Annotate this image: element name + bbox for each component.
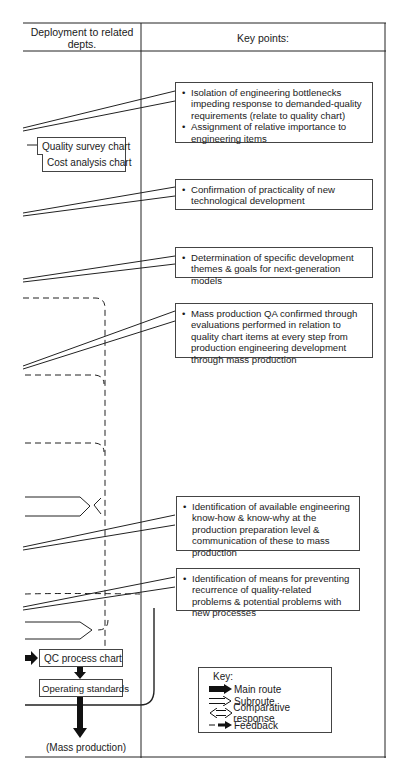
legend-item-feedback: Feedback: [209, 719, 278, 731]
subroute-arrow-2: [25, 622, 92, 639]
key-point-box-6: Identification of means for preventing r…: [176, 568, 360, 611]
key-point-bullet: Determination of specific development th…: [191, 252, 366, 286]
comparative-response-arrow-icon: [209, 708, 232, 718]
quality-survey-chart-box: Quality survey chart: [37, 137, 126, 155]
callout-pointer-5: [23, 515, 175, 550]
qc-process-chart-box: QC process chart: [39, 649, 123, 667]
key-point-bullet: Assignment of relative importance to eng…: [191, 121, 366, 144]
deployment-diagram: Deployment to related depts. Key points:…: [0, 0, 405, 773]
legend-title: Key:: [213, 671, 233, 682]
cost-analysis-chart-box: Cost analysis chart: [42, 154, 126, 172]
key-point-bullet: Mass production QA confirmed through eva…: [191, 308, 366, 365]
key-point-box-3: Determination of specific development th…: [175, 247, 373, 278]
operating-standards-box: Operating standards: [39, 679, 123, 697]
key-point-box-1: Isolation of engineering bottlenecks imp…: [175, 82, 373, 143]
key-point-bullet: Confirmation of practicality of new tech…: [191, 184, 366, 207]
callout-pointer-4: [23, 311, 175, 369]
mass-production-label: (Mass production): [46, 742, 126, 754]
subroute-arrow-icon: [209, 696, 233, 706]
key-point-box-2: Confirmation of practicality of new tech…: [175, 179, 373, 210]
header-deployment: Deployment to related depts.: [23, 26, 141, 50]
legend-box: Key: Main route Subroute Comparative res…: [198, 667, 332, 733]
callout-pointer-2: [23, 187, 175, 216]
key-point-bullet: Identification of means for preventing r…: [192, 573, 353, 619]
subroute-arrow-1: [25, 497, 90, 516]
legend-item-main-route: Main route: [209, 683, 281, 695]
key-point-bullet: Isolation of engineering bottlenecks imp…: [191, 87, 366, 121]
callout-pointer-1: [23, 91, 175, 131]
feedback-lines: [23, 298, 140, 660]
main-route-arrow-icon: [209, 684, 233, 694]
key-point-box-4: Mass production QA confirmed through eva…: [175, 303, 373, 358]
key-point-bullet: Identification of available engineering …: [192, 501, 353, 558]
legend-item-comparative-response: Comparative response: [209, 707, 331, 719]
feedback-arrow-icon: [209, 720, 233, 730]
key-point-box-5: Identification of available engineering …: [176, 496, 360, 551]
header-key-points: Key points:: [141, 32, 385, 44]
callout-pointer-3: [23, 256, 175, 282]
